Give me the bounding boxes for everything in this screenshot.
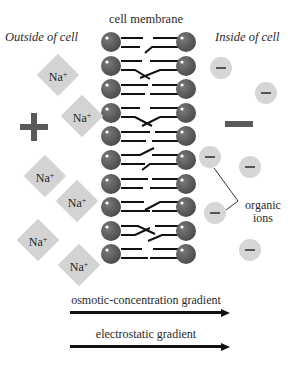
organic-ion: [210, 57, 232, 79]
lipid-heads-inner: [176, 32, 196, 264]
organic-ions-label: organic ions: [238, 199, 288, 225]
sodium-ion: Na+: [23, 225, 53, 255]
organic-ion: [199, 146, 221, 168]
lipid-tails: [121, 38, 180, 258]
osmotic-gradient-label: osmotic-concentration gradient: [0, 293, 292, 308]
sodium-ion: Na+: [30, 161, 60, 191]
sodium-ion: Na+: [62, 186, 92, 216]
organic-ion: [239, 239, 261, 261]
electrostatic-gradient-label: electrostatic gradient: [0, 327, 292, 342]
sodium-ion: Na+: [64, 250, 94, 280]
organic-ion: [255, 82, 277, 104]
lipid-heads-outer: [101, 32, 121, 264]
osmotic-gradient-arrow: [70, 309, 230, 317]
organic-ion: [239, 156, 261, 178]
organic-ion: [204, 202, 226, 224]
electrostatic-gradient-arrow: [70, 343, 230, 351]
sodium-ion: Na+: [43, 60, 73, 90]
sodium-ion: Na+: [67, 101, 97, 131]
